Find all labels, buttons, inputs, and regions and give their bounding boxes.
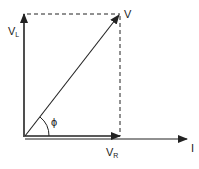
phasor-diagram-svg — [0, 0, 199, 169]
vr-label: VR — [106, 147, 118, 159]
phi-angle-arc — [40, 117, 49, 136]
phasor-diagram: VL V ϕ VR I — [0, 0, 199, 169]
vl-label: VL — [8, 26, 19, 38]
phi-label: ϕ — [51, 117, 57, 128]
v-label: V — [124, 9, 131, 20]
v-vector — [25, 15, 119, 136]
i-label: I — [191, 143, 194, 154]
